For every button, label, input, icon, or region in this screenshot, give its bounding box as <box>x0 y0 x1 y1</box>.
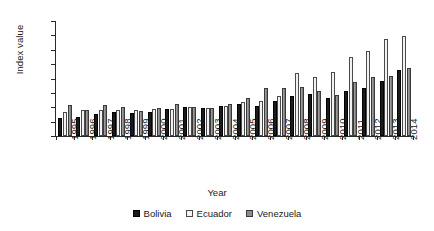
x-axis-tick-label-2011: 2011 <box>355 110 366 140</box>
bar-ecuador-1996 <box>81 110 85 136</box>
bar-ecuador-2004 <box>224 106 228 136</box>
bar-bolivia-1995 <box>58 118 62 136</box>
bar-ecuador-2005 <box>241 102 245 136</box>
x-axis-tick-label-2006: 2006 <box>265 110 276 140</box>
legend-item-bolivia[interactable]: Bolivia <box>133 208 172 219</box>
bar-ecuador-2011 <box>349 57 353 136</box>
bar-ecuador-2001 <box>170 109 174 136</box>
x-axis-tick-label-2005: 2005 <box>247 110 258 140</box>
x-axis-tick-label-1998: 1998 <box>122 110 133 140</box>
x-axis-tick-label-2001: 2001 <box>176 110 187 140</box>
legend-swatch-venezuela-icon <box>246 210 253 217</box>
x-axis-tick-label-2007: 2007 <box>283 110 294 140</box>
bar-ecuador-2003 <box>206 108 210 136</box>
legend-swatch-bolivia-icon <box>133 210 140 217</box>
bar-ecuador-2002 <box>188 107 192 136</box>
bar-ecuador-1998 <box>116 110 120 136</box>
x-axis-tick-label-2008: 2008 <box>301 110 312 140</box>
x-axis-tick-label-2004: 2004 <box>230 110 241 140</box>
x-axis-title: Year <box>0 187 434 198</box>
x-axis-tick-label-2013: 2013 <box>390 110 401 140</box>
x-axis-tick-label-2000: 2000 <box>158 110 169 140</box>
legend-label: Ecuador <box>197 208 232 219</box>
bar-ecuador-2010 <box>331 72 335 136</box>
legend-label: Venezuela <box>257 208 301 219</box>
x-axis-tick <box>56 136 57 140</box>
bar-ecuador-2012 <box>366 51 370 136</box>
x-axis-tick-label-1995: 1995 <box>69 110 80 140</box>
bar-ecuador-2006 <box>259 101 263 136</box>
x-axis-tick-label-1999: 1999 <box>140 110 151 140</box>
bar-ecuador-2000 <box>152 109 156 136</box>
bar-ecuador-2007 <box>277 96 281 136</box>
x-axis-tick-label-2009: 2009 <box>319 110 330 140</box>
bar-ecuador-2008 <box>295 73 299 136</box>
x-axis-tick-label-2003: 2003 <box>212 110 223 140</box>
bar-ecuador-2013 <box>384 39 388 136</box>
legend-label: Bolivia <box>144 208 172 219</box>
x-axis-tick-label-2014: 2014 <box>408 110 419 140</box>
x-axis-tick-label-1996: 1996 <box>87 110 98 140</box>
bar-chart: Index value 050100150200250300350400 199… <box>0 0 434 231</box>
legend-item-venezuela[interactable]: Venezuela <box>246 208 301 219</box>
legend-swatch-ecuador-icon <box>186 210 193 217</box>
bar-ecuador-1995 <box>63 112 67 136</box>
legend-item-ecuador[interactable]: Ecuador <box>186 208 232 219</box>
x-axis-tick-label-2012: 2012 <box>372 110 383 140</box>
x-axis-tick-label-2010: 2010 <box>337 110 348 140</box>
bar-ecuador-2014 <box>402 36 406 136</box>
bar-ecuador-1999 <box>134 110 138 136</box>
x-axis-tick-label-2002: 2002 <box>194 110 205 140</box>
x-axis-tick-label-1997: 1997 <box>105 110 116 140</box>
bar-ecuador-1997 <box>99 110 103 136</box>
chart-legend: BoliviaEcuadorVenezuela <box>0 208 434 219</box>
bar-ecuador-2009 <box>313 77 317 136</box>
